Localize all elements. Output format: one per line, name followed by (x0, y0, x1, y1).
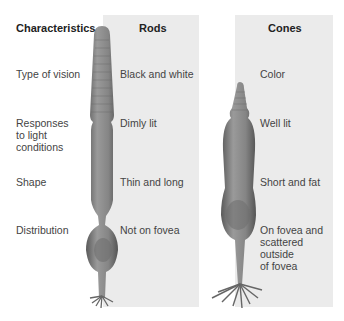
rods-light-responses: Dimly lit (120, 117, 157, 129)
cones-type-of-vision: Color (260, 68, 285, 80)
cones-distribution: On fovea and scattered outside of fovea (260, 224, 323, 272)
cones-shape: Short and fat (260, 176, 320, 188)
row-label-light-responses: Responses to light conditions (16, 117, 69, 153)
rods-distribution: Not on fovea (120, 224, 180, 236)
characteristics-header: Characteristics (16, 22, 96, 34)
row-label-type-of-vision: Type of vision (16, 68, 80, 80)
cell-illustrations (0, 0, 344, 321)
rods-type-of-vision: Black and white (120, 68, 194, 80)
rods-header: Rods (139, 22, 167, 34)
rod-cell-icon (86, 26, 118, 308)
rods-shape: Thin and long (120, 176, 184, 188)
cones-light-responses: Well lit (260, 117, 291, 129)
cone-cell-icon (212, 82, 262, 308)
cones-header: Cones (268, 22, 302, 34)
row-label-shape: Shape (16, 176, 46, 188)
row-label-distribution: Distribution (16, 224, 69, 236)
